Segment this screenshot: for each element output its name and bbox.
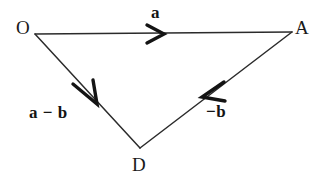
vertex-label-d: D (132, 155, 146, 174)
vector-triangle-graphic (0, 0, 324, 183)
vector-label-a: a (151, 4, 160, 21)
vector-diagram: O A D a a − b −b (0, 0, 324, 183)
vertex-label-o: O (16, 18, 30, 37)
edge-o-to-d (35, 34, 140, 148)
vector-label-a-minus-b: a − b (29, 104, 68, 121)
edge-a-to-d (140, 32, 292, 148)
arrowhead-vector-a-minus-b (73, 80, 97, 104)
vertex-label-a: A (295, 18, 309, 37)
vector-label-minus-b: −b (206, 103, 226, 120)
arrowhead-vector-a (147, 25, 164, 43)
